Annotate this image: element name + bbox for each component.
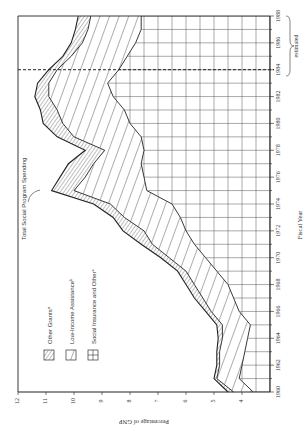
year-tick-label: 1986 xyxy=(275,37,281,49)
x-axis-title: Fiscal Year xyxy=(296,210,303,240)
value-tick-label: 4 xyxy=(238,400,244,403)
value-tick-label: 6 xyxy=(182,400,188,403)
legend-swatch-other-grants xyxy=(44,350,54,360)
year-tick-label: 1984 xyxy=(275,64,281,76)
year-tick-label: 1968 xyxy=(275,279,281,291)
value-tick-label: 8 xyxy=(126,400,132,403)
year-tick-label: 1980 xyxy=(275,117,281,129)
value-tick-label: 5 xyxy=(210,400,216,403)
chart: 1960196219641966196819701972197419761978… xyxy=(0,0,308,428)
total-spending-annotation: Total Social Program Spending xyxy=(21,158,27,240)
year-tick-label: 1982 xyxy=(275,91,281,103)
year-tick-label: 1978 xyxy=(275,144,281,156)
value-tick-label: 9 xyxy=(98,400,104,403)
y-axis-title: Percentage of GNP xyxy=(119,419,170,426)
value-tick-label: 12 xyxy=(14,398,20,404)
year-tick-label: 1976 xyxy=(275,171,281,183)
legend-label-other-grants: Other Grantsa xyxy=(46,306,53,344)
year-tick-label: 1988 xyxy=(275,10,281,22)
legend-swatch-low-income xyxy=(66,350,76,360)
legend: Other Grantsa Low-Income Assistanceb Soc… xyxy=(44,269,98,360)
annotation-arrow xyxy=(28,190,40,202)
year-tick-label: 1964 xyxy=(275,332,281,344)
legend-label-social-insurance: Social Insurance and Otherc xyxy=(90,269,97,344)
estimated-label: estimated xyxy=(293,35,299,58)
value-tick-label: 7 xyxy=(154,400,160,403)
value-tick-label: 10 xyxy=(70,398,76,404)
legend-label-low-income: Low-Income Assistanceb xyxy=(68,278,75,344)
year-tick-label: 1962 xyxy=(275,359,281,371)
year-tick-label: 1970 xyxy=(275,252,281,264)
year-tick-label: 1972 xyxy=(275,225,281,237)
year-tick-label: 1960 xyxy=(275,386,281,398)
year-tick-label: 1974 xyxy=(275,198,281,210)
year-tick-label: 1966 xyxy=(275,305,281,317)
value-tick-label: 11 xyxy=(42,398,48,404)
